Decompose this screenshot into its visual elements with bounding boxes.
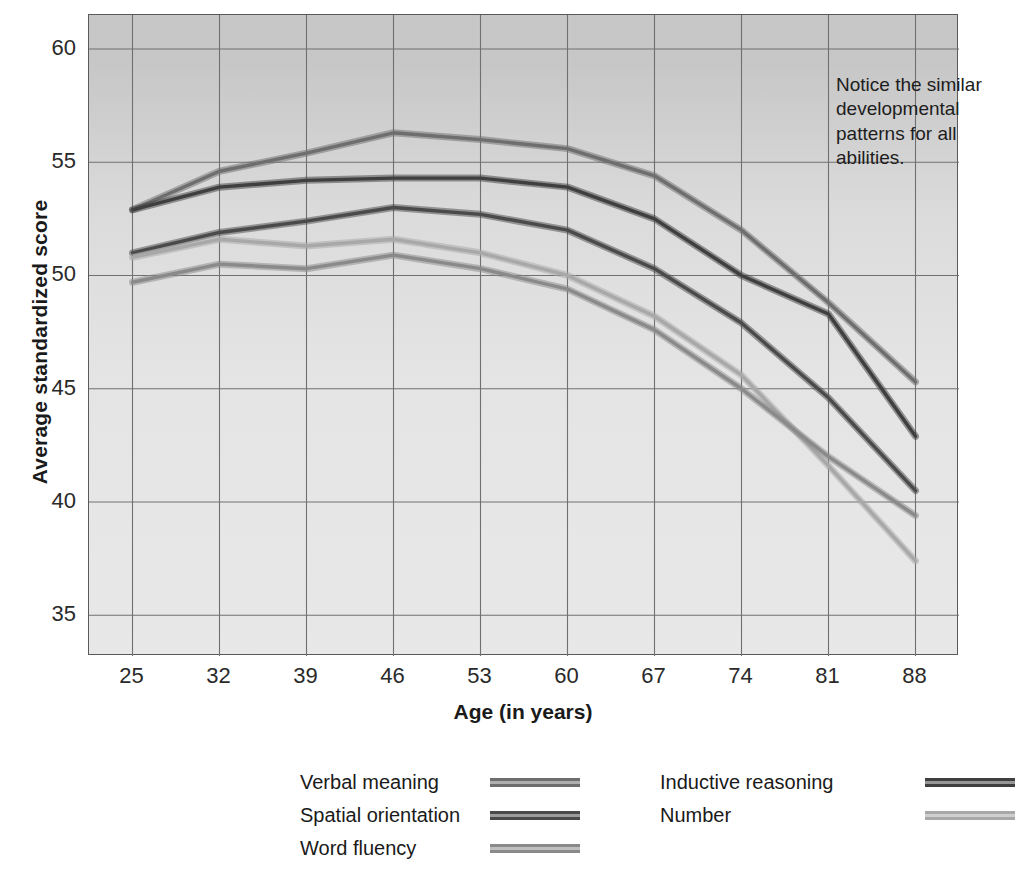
grid-lines bbox=[89, 15, 959, 656]
y-axis-tick-labels: 354045505560 bbox=[0, 0, 76, 872]
y-tick-label: 50 bbox=[22, 261, 76, 287]
series-line-halo bbox=[133, 133, 916, 382]
x-tick-label: 88 bbox=[885, 663, 945, 689]
x-tick-label: 81 bbox=[798, 663, 858, 689]
series-line bbox=[133, 178, 916, 436]
legend-item-label: Spatial orientation bbox=[300, 804, 460, 827]
chart-canvas bbox=[89, 15, 959, 656]
series-line-halo bbox=[133, 255, 916, 515]
chart-legend: Verbal meaningSpatial orientationWord fl… bbox=[300, 766, 920, 866]
x-tick-label: 53 bbox=[450, 663, 510, 689]
legend-item[interactable]: Inductive reasoning bbox=[660, 766, 940, 799]
x-tick-label: 46 bbox=[363, 663, 423, 689]
series-line-core bbox=[133, 178, 916, 436]
x-tick-label: 60 bbox=[537, 663, 597, 689]
series-line-halo bbox=[133, 239, 916, 561]
legend-item-label: Word fluency bbox=[300, 837, 416, 860]
x-tick-label: 67 bbox=[624, 663, 684, 689]
y-tick-label: 55 bbox=[22, 148, 76, 174]
series-line-core bbox=[133, 208, 916, 491]
series-line-core bbox=[133, 133, 916, 382]
x-axis-title: Age (in years) bbox=[88, 700, 958, 724]
series-line bbox=[133, 239, 916, 561]
series-line bbox=[133, 255, 916, 515]
y-tick-label: 60 bbox=[22, 35, 76, 61]
series-line bbox=[133, 208, 916, 491]
y-tick-label: 40 bbox=[22, 488, 76, 514]
legend-color-swatch bbox=[925, 778, 1015, 787]
x-tick-label: 25 bbox=[102, 663, 162, 689]
legend-column: Verbal meaningSpatial orientationWord fl… bbox=[300, 766, 580, 865]
series-line bbox=[133, 133, 916, 382]
legend-item[interactable]: Word fluency bbox=[300, 832, 580, 865]
legend-color-swatch bbox=[925, 811, 1015, 820]
legend-color-swatch bbox=[490, 811, 580, 820]
x-tick-label: 32 bbox=[189, 663, 249, 689]
x-tick-label: 39 bbox=[276, 663, 336, 689]
legend-item-label: Inductive reasoning bbox=[660, 771, 833, 794]
chart-annotation: Notice the similar developmental pattern… bbox=[836, 73, 1019, 170]
plot-area: Notice the similar developmental pattern… bbox=[88, 14, 958, 655]
legend-item-label: Verbal meaning bbox=[300, 771, 439, 794]
y-tick-label: 35 bbox=[22, 601, 76, 627]
series-line-halo bbox=[133, 178, 916, 436]
series-line-core bbox=[133, 239, 916, 561]
legend-item[interactable]: Verbal meaning bbox=[300, 766, 580, 799]
series-line-halo bbox=[133, 208, 916, 491]
series-line-core bbox=[133, 255, 916, 515]
x-tick-label: 74 bbox=[711, 663, 771, 689]
legend-item[interactable]: Spatial orientation bbox=[300, 799, 580, 832]
legend-column: Inductive reasoningNumber bbox=[660, 766, 940, 832]
legend-color-swatch bbox=[490, 778, 580, 787]
legend-color-swatch bbox=[490, 844, 580, 853]
y-tick-label: 45 bbox=[22, 375, 76, 401]
legend-item[interactable]: Number bbox=[660, 799, 940, 832]
legend-item-label: Number bbox=[660, 804, 731, 827]
